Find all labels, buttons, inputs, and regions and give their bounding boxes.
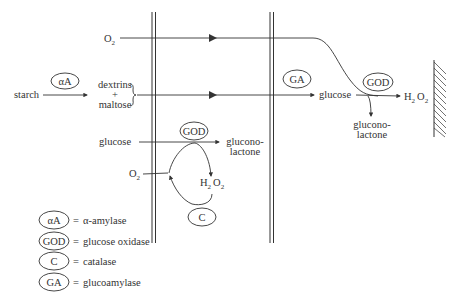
svg-text:=: =	[73, 277, 79, 288]
o2-mid-label: O2	[129, 168, 141, 182]
svg-text:GOD: GOD	[367, 77, 390, 88]
svg-text:GOD: GOD	[43, 236, 66, 247]
membrane-left	[152, 12, 156, 243]
svg-text:GA: GA	[289, 74, 305, 85]
svg-text:lactone: lactone	[230, 146, 261, 157]
gluconolactone-right-arrow	[368, 96, 371, 116]
o2-to-h2o2-arrow	[169, 143, 211, 176]
svg-text:α-amylase: α-amylase	[83, 215, 127, 226]
legend: αA = α-amylase GOD = glucose oxidase C =…	[39, 211, 150, 291]
o2-top-label: O2	[104, 33, 116, 47]
svg-text:lactone: lactone	[357, 129, 388, 140]
svg-text:=: =	[73, 215, 79, 226]
enzyme-membrane-diagram: O2 starch αA dextrins + maltose GA gluco…	[0, 0, 455, 303]
legend-item: GOD = glucose oxidase	[39, 232, 150, 250]
glucose-mid-label: glucose	[99, 136, 131, 147]
svg-text:glucoamylase: glucoamylase	[83, 277, 141, 288]
electrode-wall	[434, 60, 446, 137]
svg-text:catalase: catalase	[83, 256, 117, 267]
membrane-right	[270, 12, 274, 243]
svg-text:=: =	[73, 236, 79, 247]
starch-label: starch	[14, 89, 40, 100]
legend-item: αA = α-amylase	[39, 211, 127, 229]
svg-text:αA: αA	[47, 215, 61, 226]
h2o2-mid-label: H2O2	[200, 177, 225, 191]
svg-text:C: C	[198, 212, 205, 223]
svg-text:=: =	[73, 256, 79, 267]
h2o2-right-label: H2O2	[404, 91, 429, 105]
svg-text:glucose oxidase: glucose oxidase	[83, 236, 150, 247]
svg-text:C: C	[50, 256, 57, 267]
legend-item: GA = glucoamylase	[39, 273, 141, 291]
maltose-label: maltose	[99, 99, 132, 110]
glucose-right-label: glucose	[319, 89, 351, 100]
legend-item: C = catalase	[39, 252, 117, 270]
glucose-to-h2o2	[356, 95, 400, 96]
svg-text:GA: GA	[46, 277, 62, 288]
o2-flow: O2	[104, 33, 378, 96]
svg-text:αA: αA	[58, 76, 72, 87]
svg-text:GOD: GOD	[183, 126, 206, 137]
